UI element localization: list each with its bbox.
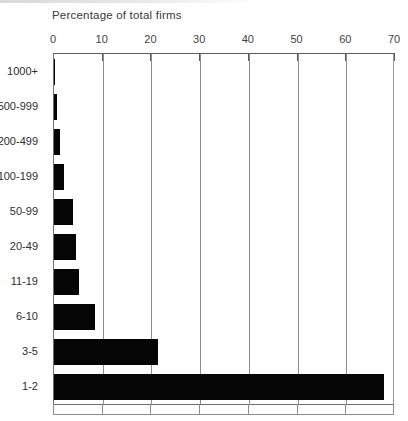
bar-row — [54, 59, 395, 85]
plot-area — [53, 54, 394, 404]
bar-1-2 — [54, 374, 384, 400]
x-tick-label-0: 0 — [50, 33, 56, 45]
y-label-100-199: 100-199 — [0, 170, 38, 182]
bar-row — [54, 304, 395, 330]
y-label-1000+: 1000+ — [7, 65, 38, 77]
bar-row — [54, 129, 395, 155]
x-tick-label-60: 60 — [339, 33, 351, 45]
x-tick-label-20: 20 — [144, 33, 156, 45]
y-axis-category-labels: 1000+500-999200-499100-19950-9920-4911-1… — [0, 54, 47, 404]
bar-11-19 — [54, 269, 79, 295]
bar-row — [54, 94, 395, 120]
bar-row — [54, 164, 395, 190]
x-tick-label-30: 30 — [193, 33, 205, 45]
bar-row — [54, 234, 395, 260]
bar-row — [54, 339, 395, 365]
bar-row — [54, 374, 395, 400]
figure-caption-clip — [0, 414, 408, 421]
bar-200-499 — [54, 129, 60, 155]
y-label-1-2: 1-2 — [22, 380, 38, 392]
x-tick-label-40: 40 — [242, 33, 254, 45]
y-label-500-999: 500-999 — [0, 100, 38, 112]
bar-row — [54, 269, 395, 295]
y-label-11-19: 11-19 — [11, 275, 38, 287]
bar-50-99 — [54, 199, 73, 225]
x-tick-label-10: 10 — [96, 33, 108, 45]
bar-row — [54, 199, 395, 225]
x-tick-label-70: 70 — [388, 33, 400, 45]
chart-title: Percentage of total firms — [52, 9, 182, 21]
bar-500-999 — [54, 94, 57, 120]
y-label-6-10: 6-10 — [16, 310, 38, 322]
bar-3-5 — [54, 339, 158, 365]
bar-20-49 — [54, 234, 76, 260]
y-label-3-5: 3-5 — [22, 345, 38, 357]
y-label-20-49: 20-49 — [10, 240, 38, 252]
bar-6-10 — [54, 304, 95, 330]
bar-chart-figure: Percentage of total firms 01020304050607… — [0, 0, 408, 421]
y-label-50-99: 50-99 — [10, 205, 38, 217]
x-tick-label-50: 50 — [290, 33, 302, 45]
bar-100-199 — [54, 164, 64, 190]
y-label-200-499: 200-499 — [0, 135, 38, 147]
